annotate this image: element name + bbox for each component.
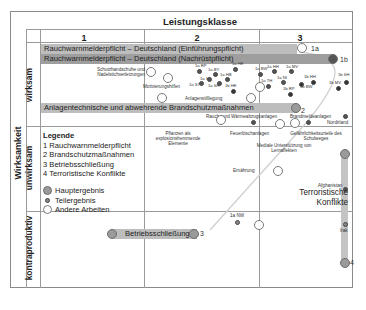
label-1b-hh: 1b HH <box>304 74 316 79</box>
marker-2-label: 2 <box>301 108 305 113</box>
circle-rauch-waerme <box>216 115 226 125</box>
label-feuerloesch: Feuerlöschanlagen <box>230 131 269 136</box>
marker-1b-circle <box>328 54 338 64</box>
point-1a-mv <box>289 69 294 74</box>
legend-item-1: 1 Rauchwarnmelderpflicht <box>43 141 134 151</box>
marker-1b-label: 1b <box>340 57 348 62</box>
label-nordirland: Nordirland <box>327 120 348 125</box>
point-1a-hh <box>272 69 277 74</box>
label-gefaehrlichkeit: Gefährlichkeitsurteile des Schulweges <box>287 131 345 141</box>
bar-1b: Rauchwarnmelderpflicht – Deutschland (Na… <box>41 54 334 64</box>
point-1b-he <box>231 89 236 94</box>
label-1b-mv: 1b MV <box>329 80 341 85</box>
point-brandmelde <box>306 120 311 125</box>
label-irak: Irak <box>340 228 348 233</box>
legend-item-2: 2 Brandschutzmaßnahmen <box>43 150 134 160</box>
circle-schutzhandschuhe <box>146 67 156 77</box>
point-1a-bw <box>258 72 263 77</box>
point-1b-sh <box>344 80 349 85</box>
point-1a-rp <box>197 69 202 74</box>
other-work-icon <box>43 205 52 214</box>
marker-4-label: 4 <box>350 260 354 265</box>
point-1a-by <box>213 72 218 77</box>
point-1a-ni <box>281 80 286 85</box>
point-irak <box>343 222 348 227</box>
label-1a-nw: 1a NW <box>230 213 244 218</box>
marker-3-label: 3 <box>200 231 204 236</box>
point-1a-hb <box>225 77 230 82</box>
point-1a-th <box>266 84 271 89</box>
circle-motivierung <box>163 73 173 83</box>
marker-1a-circle <box>297 43 307 53</box>
label-1a-th: 1a TH <box>261 78 272 83</box>
circle-kontra-col3 <box>254 220 264 230</box>
point-1b-bw <box>299 82 304 87</box>
point-rauch-waerme <box>251 120 256 125</box>
point-1a-nw <box>235 220 240 225</box>
marker-1a-label: 1a <box>311 46 319 51</box>
circle-anlagen-right <box>246 93 256 103</box>
label-motivierungshilfen: Motivierungshilfen <box>143 84 180 89</box>
label-terroristische-konflikte: Terroristische Konflikte <box>288 188 348 207</box>
label-1a-bw: 1a BW <box>255 66 268 71</box>
circle-anlagen-left <box>157 93 167 103</box>
point-1b-mv <box>336 86 341 91</box>
circle-column-boundary <box>255 82 265 92</box>
marker-2-circle <box>291 103 301 113</box>
legend-item-4: 4 Terroristische Konflikte <box>43 169 134 179</box>
label-mediale: Mediale Unterstützung von Lernaffekten <box>255 143 313 153</box>
band-terroristische-konflikte <box>341 152 348 262</box>
bar-1a: Rauchwarnmelderpflicht – Deutschland (Ei… <box>41 44 297 54</box>
label-1b-rp: 1b RP <box>283 86 295 91</box>
point-1a-sh <box>217 81 222 86</box>
legend-symbol-other: Andere Arbeiten <box>43 205 134 215</box>
label-1a-rp: 1a RP <box>195 63 207 68</box>
legend-title: Legende <box>43 131 134 141</box>
point-nordirland <box>343 114 348 119</box>
marker-4-circle <box>340 258 350 268</box>
label-schutzhandschuhe: Schutzhandschuhe und Nadelstichverletzun… <box>85 67 145 77</box>
label-anlagenstilllegung: Anlagenstilllegung <box>185 96 222 101</box>
circle-feuer <box>275 119 285 129</box>
point-1a-he <box>233 67 238 72</box>
circle-ernaehrung <box>273 166 283 176</box>
marker-3-start-circle <box>107 229 117 239</box>
label-ernaehrung: Ernährung <box>233 168 254 173</box>
marker-3-end-circle <box>189 229 199 239</box>
main-result-icon <box>43 186 52 195</box>
point-1b-rp <box>288 92 293 97</box>
partial-result-icon <box>45 198 50 203</box>
legend-item-3: 3 Betriebsschließung <box>43 160 134 170</box>
legend-symbol-partial: Teilergebnis <box>43 196 134 206</box>
circle-brandmelde <box>290 118 300 128</box>
label-1b-sh: 1b SH <box>338 72 350 77</box>
legend-symbol-main: Hauptergebnis <box>43 186 134 196</box>
bar-3: Betriebsschließung <box>111 229 197 239</box>
label-pflanzen: Pflanzen als explosionshemmende Elemente <box>148 131 208 146</box>
legend: Legende 1 Rauchwarnmelderpflicht 2 Brand… <box>43 131 134 215</box>
point-1a-sl <box>207 77 212 82</box>
label-1a-he: 1a HE <box>232 61 244 66</box>
band-top-circle <box>340 149 350 159</box>
point-1a-st <box>199 81 204 86</box>
label-1b-he: 1b HE <box>225 83 237 88</box>
bar-2: Anlagentechnische und abwehrende Brandsc… <box>41 103 297 113</box>
